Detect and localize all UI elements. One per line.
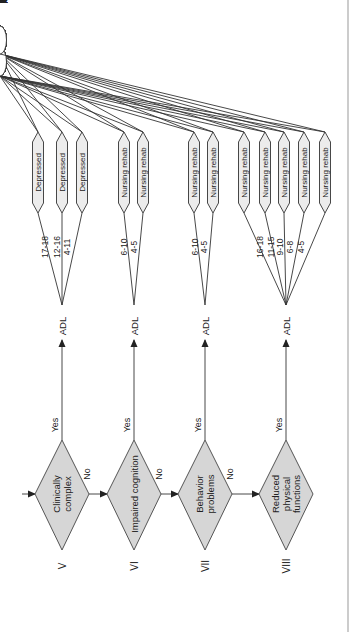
adl-branch-line — [124, 213, 134, 305]
adl-label: ADL — [57, 317, 68, 335]
adl-branch-line — [284, 213, 286, 305]
adl-range-label: 6-10 — [119, 238, 129, 255]
adl-range-label: 4-11 — [62, 239, 72, 256]
adl-range-label: 4-5 — [129, 241, 139, 254]
no-label: No — [154, 468, 164, 480]
adl-range-label: 4-5 — [296, 241, 306, 254]
adl-branch-line — [194, 213, 205, 305]
adl-branch-line — [38, 213, 62, 305]
decision-label: complex — [62, 476, 73, 512]
leaf-edge — [0, 76, 284, 132]
yes-label: Yes — [122, 417, 132, 432]
intermediate-node-label: Nursing rehab — [120, 147, 129, 198]
decision-label: physical — [281, 477, 292, 511]
leaf-edge — [0, 76, 304, 132]
group-numeral: V — [57, 562, 68, 569]
no-label: No — [225, 468, 235, 480]
intermediate-node-label: Depressed — [34, 153, 43, 192]
intermediate-node-label: Nursing rehab — [240, 147, 249, 198]
adl-label: ADL — [129, 317, 140, 335]
yes-label: Yes — [50, 417, 60, 432]
leaf-node-label: PA1 — [0, 0, 8, 5]
no-label: No — [82, 468, 92, 480]
adl-branch-line — [62, 213, 82, 305]
intermediate-node-label: Nursing rehab — [139, 147, 148, 198]
adl-range-label: 9-10 — [275, 238, 285, 255]
adl-branch-line — [244, 213, 286, 305]
adl-branch-line — [265, 213, 286, 305]
group-numeral: VIII — [281, 558, 292, 573]
decision-label: Clinically — [51, 475, 62, 513]
intermediate-node-label: Nursing rehab — [209, 147, 218, 198]
decision-label: functions — [291, 475, 302, 513]
group-numeral: VII — [200, 560, 211, 572]
leaf-node — [0, 26, 7, 54]
yes-label: Yes — [193, 417, 203, 432]
adl-range-label: 4-5 — [199, 241, 209, 254]
adl-branch-line — [134, 213, 143, 305]
adl-range-label: 6-10 — [190, 238, 200, 255]
adl-label: ADL — [200, 317, 211, 335]
adl-branch-line — [286, 213, 304, 305]
decision-label: problems — [205, 474, 216, 513]
adl-range-label: 16-18 — [255, 236, 265, 258]
decision-label: Impaired cognition — [129, 455, 140, 533]
adl-label: ADL — [281, 317, 292, 335]
group-numeral: VI — [129, 561, 140, 570]
intermediate-node-label: Nursing rehab — [261, 147, 270, 198]
adl-branch-line — [286, 213, 325, 305]
intermediate-node-label: Nursing rehab — [190, 147, 199, 198]
intermediate-node-label: Nursing rehab — [280, 147, 289, 198]
adl-range-label: 17-18 — [40, 236, 50, 258]
adl-range-label: 6-8 — [285, 241, 295, 254]
intermediate-node-label: Nursing rehab — [321, 147, 330, 198]
intermediate-node-label: Depressed — [78, 153, 87, 192]
intermediate-node-label: Nursing rehab — [300, 147, 309, 198]
adl-branch-line — [205, 213, 213, 305]
adl-range-label: 12-16 — [52, 236, 62, 258]
yes-label: Yes — [274, 417, 284, 432]
diagram-canvas: ClinicallycomplexVNoYesADL17-18Depressed… — [0, 0, 356, 632]
intermediate-node-label: Depressed — [58, 153, 67, 192]
decision-label: Behavior — [194, 475, 205, 513]
leaf-edge — [0, 76, 325, 132]
decision-label: Reduced — [270, 475, 281, 513]
decision-tree-diagram: ClinicallycomplexVNoYesADL17-18Depressed… — [0, 0, 356, 632]
adl-range-label: 11-15 — [266, 236, 276, 257]
